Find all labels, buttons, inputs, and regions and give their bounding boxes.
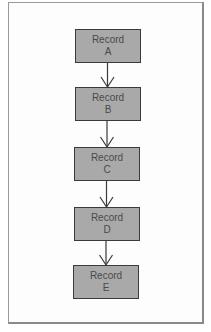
record-d-node: Record D (74, 207, 140, 241)
record-b-id: B (105, 104, 112, 116)
record-c-id: C (103, 164, 110, 176)
arrow-c-to-d (100, 180, 113, 207)
record-e-id: E (103, 282, 110, 294)
record-d-id: D (103, 224, 110, 236)
record-a-id: A (105, 46, 112, 58)
record-a-node: Record A (75, 29, 141, 63)
arrow-d-to-e (100, 240, 113, 265)
record-b-label: Record (92, 92, 124, 104)
record-c-node: Record C (74, 147, 140, 181)
record-e-node: Record E (73, 265, 139, 299)
arrow-a-to-b (101, 63, 114, 87)
record-a-label: Record (92, 34, 124, 46)
record-e-label: Record (90, 270, 122, 282)
record-d-label: Record (91, 212, 123, 224)
record-c-label: Record (91, 152, 123, 164)
record-b-node: Record B (75, 87, 141, 121)
arrow-b-to-c (101, 120, 114, 147)
